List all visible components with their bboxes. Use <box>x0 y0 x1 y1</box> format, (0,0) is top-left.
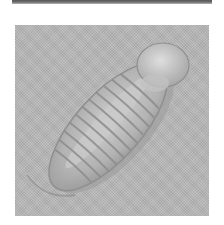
trilobite-cephalon <box>137 43 189 92</box>
adjacent-image-edge <box>12 0 212 4</box>
trilobite-photo <box>15 25 209 216</box>
trilobite-fossil <box>15 25 209 216</box>
